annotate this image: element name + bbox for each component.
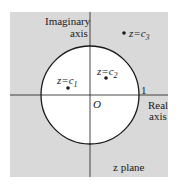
label-c2: z=c2 [97,66,118,81]
z-plane-label: z plane [113,162,144,173]
origin-label: O [93,99,101,110]
imaginary-axis-label-2: axis [70,28,88,39]
label-c1: z=c1 [57,75,78,90]
point-c3 [122,31,126,35]
imaginary-axis-label-1: Imaginary [45,16,90,27]
label-c1-sub: 1 [74,80,78,89]
label-c3-text: z=c [129,27,146,39]
label-c2-sub: 2 [114,71,118,80]
label-c2-text: z=c [97,65,114,77]
complex-plane-figure [0,0,183,187]
unit-label: 1 [141,85,147,96]
label-c3: z=c3 [129,28,150,43]
label-c3-sub: 3 [146,33,150,42]
label-c1-text: z=c [57,74,74,86]
real-axis-label-2: axis [149,111,167,122]
